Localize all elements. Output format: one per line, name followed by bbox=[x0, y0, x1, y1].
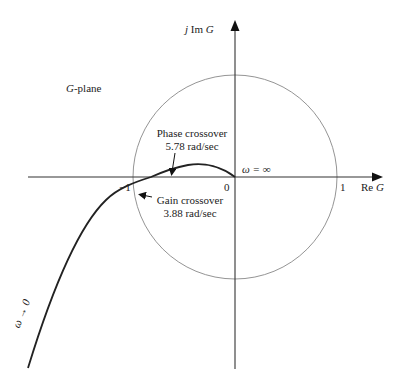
gain-crossover-label: Gain crossover 3.88 rad/sec bbox=[150, 194, 230, 219]
imag-axis-label: j j ImIm G bbox=[185, 23, 214, 36]
imag-axis-arrow-icon bbox=[231, 20, 240, 31]
plane-label: G-plane bbox=[66, 82, 101, 95]
omega-infinity-label: ω = ∞ bbox=[242, 163, 271, 176]
tick-zero: 0 bbox=[224, 181, 230, 194]
real-axis-label: Re G bbox=[361, 181, 384, 194]
tick-one: 1 bbox=[340, 181, 346, 194]
phase-crossover-label: Phase crossover 5.78 rad/sec bbox=[152, 127, 232, 152]
tick-minus-one: −1 bbox=[119, 181, 131, 194]
